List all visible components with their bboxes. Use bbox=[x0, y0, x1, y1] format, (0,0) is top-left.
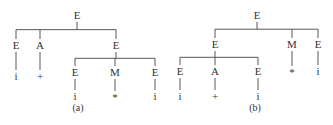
tree-node-a_E4: E bbox=[152, 66, 159, 78]
tree-node-a_M: M bbox=[110, 66, 120, 78]
tree-caption: (a) bbox=[72, 102, 83, 114]
tree-b: EEMEEAE*ii+i(b) bbox=[177, 9, 322, 114]
tree-node-b_E1: E bbox=[212, 38, 219, 50]
tree-node-b_i2: i bbox=[256, 90, 259, 102]
tree-node-b_A: A bbox=[211, 65, 219, 77]
tree-node-b_M: M bbox=[287, 38, 297, 50]
tree-node-b_plus: + bbox=[212, 90, 218, 102]
tree-caption: (b) bbox=[249, 102, 261, 114]
tree-node-a_A: A bbox=[36, 39, 44, 51]
tree-node-a_E1: E bbox=[13, 39, 20, 51]
tree-node-b_E2: E bbox=[315, 38, 322, 50]
tree-node-b_root: E bbox=[254, 9, 261, 21]
parse-trees-diagram: EEAEi+EMEi*i(a) EEMEEAE*ii+i(b) bbox=[0, 0, 333, 125]
tree-node-b_i4: i bbox=[316, 65, 319, 77]
tree-node-b_E3: E bbox=[177, 65, 184, 77]
tree-node-a_E3: E bbox=[72, 66, 79, 78]
tree-node-a_plus: + bbox=[37, 70, 43, 82]
tree-node-a_E2: E bbox=[113, 39, 120, 51]
tree-node-a_star: * bbox=[112, 91, 118, 103]
tree-node-a_root: E bbox=[74, 9, 81, 21]
tree-node-b_star: * bbox=[289, 66, 295, 78]
tree-node-b_E4: E bbox=[255, 65, 262, 77]
tree-node-b_i1: i bbox=[178, 90, 181, 102]
tree-node-a_i2: i bbox=[73, 90, 76, 102]
tree-a: EEAEi+EMEi*i(a) bbox=[13, 9, 159, 114]
tree-node-a_i3: i bbox=[153, 90, 156, 102]
tree-node-a_i1: i bbox=[14, 70, 17, 82]
